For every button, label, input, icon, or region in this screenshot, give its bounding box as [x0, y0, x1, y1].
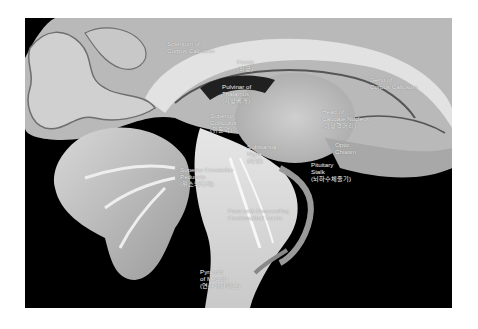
- label-line: Superior: [210, 112, 236, 119]
- label-line: Pons with Descending: [228, 207, 289, 214]
- label-pulvinar: Pulvinar ofThalamus(시상베개): [222, 83, 251, 104]
- label-line: Corpus Callosum: [370, 83, 417, 90]
- label-line: Nigra: [247, 150, 276, 157]
- label-splenium: Splenium ofCorpus Callosum: [167, 40, 214, 54]
- label-optic-chiasm: OpticChiasm: [335, 141, 356, 155]
- label-line: (미상핵머리): [322, 122, 369, 129]
- label-line: of Medulla: [200, 275, 240, 282]
- label-genu: Genu ofCorpus Callosum: [370, 76, 417, 90]
- label-line: Caudate Nucleus: [322, 115, 369, 122]
- label-line: Splenium of: [167, 40, 214, 47]
- label-line: Corticospinal Tracts: [228, 214, 289, 221]
- label-line: Substantia: [247, 143, 276, 150]
- label-line: Corpus Callosum: [167, 47, 214, 54]
- label-line: (연수피라미드): [200, 282, 240, 289]
- label-line: Head of: [322, 108, 369, 115]
- label-pituitary: PituitaryStalk(뇌하수체줄기): [311, 161, 351, 182]
- label-pyramid: Pyramidof Medulla(연수피라미드): [200, 268, 240, 289]
- label-line: Pituitary: [311, 161, 351, 168]
- label-fornix: Fornix(뇌궁): [237, 58, 254, 72]
- label-line: Chiasm: [335, 148, 356, 155]
- label-line: Peduncle: [180, 173, 234, 180]
- label-line: (흑질): [247, 157, 276, 164]
- label-line: Stalk: [311, 168, 351, 175]
- label-caudate: Head ofCaudate Nucleus(미상핵머리): [322, 108, 369, 129]
- label-line: Fornix: [237, 58, 254, 65]
- label-line: (시상베개): [222, 97, 251, 104]
- label-pons: Pons with DescendingCorticospinal Tracts: [228, 207, 289, 221]
- label-line: Pulvinar of: [222, 83, 251, 90]
- label-line: Optic: [335, 141, 356, 148]
- label-line: (위둔덕): [210, 126, 236, 133]
- label-line: Thalamus: [222, 90, 251, 97]
- label-substantia-nigra: SubstantiaNigra(흑질): [247, 143, 276, 164]
- label-line: Pyramid: [200, 268, 240, 275]
- label-sup-colliculus: SuperiorColliculus(위둔덕): [210, 112, 236, 133]
- label-line: (뇌궁): [237, 65, 254, 72]
- label-line: (위소뇌다리): [180, 180, 234, 187]
- label-line: Superior Cerebellar: [180, 166, 234, 173]
- label-sup-cereb-peduncle: Superior CerebellarPeduncle(위소뇌다리): [180, 166, 234, 187]
- label-line: Genu of: [370, 76, 417, 83]
- label-line: (뇌하수체줄기): [311, 175, 351, 182]
- label-line: Colliculus: [210, 119, 236, 126]
